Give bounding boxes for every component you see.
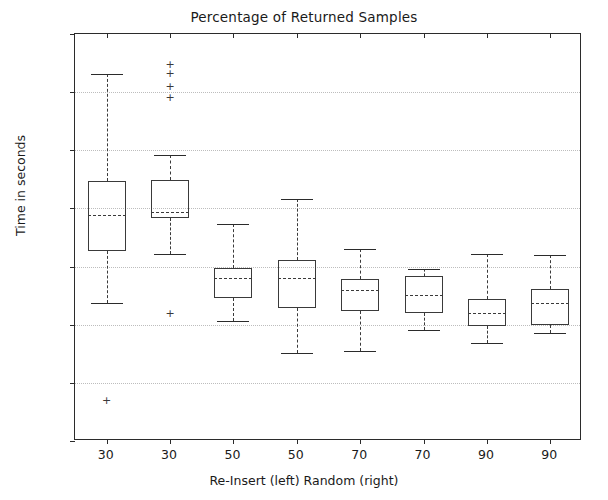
boxplot-random-90 [75,34,582,439]
x-tick-mark [424,439,425,444]
cap-upper [534,255,566,256]
x-tick-label: 50 [266,447,326,462]
x-tick-label: 90 [456,447,516,462]
y-tick-mark [70,441,75,442]
x-tick-label: 50 [202,447,262,462]
x-axis-title: Re-Insert (left) Random (right) [0,473,608,488]
boxplot-figure: Percentage of Returned Samples ++++++ 01… [0,0,608,500]
chart-title: Percentage of Returned Samples [0,9,608,25]
x-tick-mark [233,439,234,444]
iqr-box [531,289,569,326]
x-tick-mark [487,439,488,444]
x-tick-label: 30 [76,447,136,462]
x-tick-label: 70 [393,447,453,462]
x-tick-mark [170,439,171,444]
whisker-upper [550,255,551,289]
x-tick-label: 70 [329,447,389,462]
x-tick-label: 30 [139,447,199,462]
whisker-lower [550,325,551,333]
x-tick-mark [107,439,108,444]
median-line [531,303,569,304]
x-tick-label: 90 [519,447,579,462]
cap-lower [534,333,566,334]
y-axis-title: Time in seconds [13,135,28,236]
x-tick-mark [360,439,361,444]
plot-area: ++++++ [74,33,581,440]
x-tick-mark [550,439,551,444]
x-tick-mark [297,439,298,444]
